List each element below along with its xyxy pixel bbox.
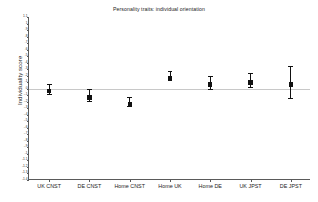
point-estimate-marker bbox=[168, 76, 172, 80]
y-axis-tick-label: -.3 bbox=[24, 107, 28, 110]
y-axis-tick-label: -.1 bbox=[24, 94, 28, 97]
ci-cap-upper bbox=[288, 66, 293, 67]
y-axis-tick-label: -1.2 bbox=[22, 165, 28, 168]
chart-figure: Personality traits: individual orientati… bbox=[0, 0, 318, 202]
point-estimate-marker bbox=[208, 82, 212, 86]
y-axis-tick-label: .5 bbox=[25, 55, 28, 58]
x-axis-tick bbox=[49, 179, 50, 182]
y-axis-tick-label: .9 bbox=[25, 28, 28, 31]
plot-area: 1.11.9.8.7.6.5.4.3.2.10-.1-.2-.3-.4-.5-.… bbox=[28, 17, 310, 180]
reference-line bbox=[29, 89, 310, 90]
ci-cap-lower bbox=[87, 101, 92, 102]
x-axis-tick bbox=[291, 179, 292, 182]
ci-cap-lower bbox=[248, 87, 253, 88]
ci-cap-upper bbox=[127, 97, 132, 98]
ci-cap-lower bbox=[168, 80, 173, 81]
ci-cap-upper bbox=[47, 84, 52, 85]
x-axis-tick-label: DE CNST bbox=[78, 183, 102, 189]
y-axis-tick-label: -.7 bbox=[24, 133, 28, 136]
chart-title: Personality traits: individual orientati… bbox=[0, 6, 318, 12]
y-axis-tick-label: -.5 bbox=[24, 120, 28, 123]
y-axis-title: Individuality score bbox=[16, 36, 23, 126]
y-axis-tick-label: 1 bbox=[26, 22, 28, 25]
point-estimate-marker bbox=[248, 80, 252, 84]
ci-cap-upper bbox=[208, 76, 213, 77]
y-axis-tick-label: -1 bbox=[25, 152, 28, 155]
point-estimate-marker bbox=[289, 82, 293, 86]
y-axis-tick-label: .4 bbox=[25, 61, 28, 64]
x-axis-tick-label: Home CNST bbox=[114, 183, 145, 189]
ci-cap-lower bbox=[288, 98, 293, 99]
y-axis-tick-label: 1.1 bbox=[23, 15, 27, 18]
x-axis-tick-label: Home DE bbox=[199, 183, 222, 189]
ci-cap-lower bbox=[47, 94, 52, 95]
y-axis-tick-label: .6 bbox=[25, 48, 28, 51]
x-axis-tick bbox=[89, 179, 90, 182]
ci-cap-upper bbox=[168, 71, 173, 72]
y-axis-tick-label: .8 bbox=[25, 35, 28, 38]
y-axis-tick-label: .2 bbox=[25, 74, 28, 77]
x-axis-tick bbox=[130, 179, 131, 182]
point-estimate-marker bbox=[47, 89, 51, 93]
x-axis-tick bbox=[251, 179, 252, 182]
point-estimate-marker bbox=[128, 102, 132, 106]
y-axis-tick-label: -.8 bbox=[24, 139, 28, 142]
y-axis-tick-label: -1.1 bbox=[22, 159, 28, 162]
y-axis-tick-label: -1.4 bbox=[22, 178, 28, 181]
y-axis-tick-label: -.6 bbox=[24, 126, 28, 129]
y-axis-tick-label: .1 bbox=[25, 81, 28, 84]
y-axis-tick-label: 0 bbox=[26, 87, 28, 90]
ci-cap-upper bbox=[248, 73, 253, 74]
y-axis-tick-label: -.4 bbox=[24, 113, 28, 116]
x-axis-tick-label: DE JPST bbox=[280, 183, 302, 189]
point-estimate-marker bbox=[87, 95, 91, 99]
y-axis-tick-label: .3 bbox=[25, 68, 28, 71]
ci-cap-lower bbox=[208, 89, 213, 90]
x-axis-tick-label: UK JPST bbox=[239, 183, 261, 189]
x-axis-tick bbox=[170, 179, 171, 182]
y-axis-tick-label: .7 bbox=[25, 41, 28, 44]
y-axis-tick-label: -.2 bbox=[24, 100, 28, 103]
y-axis-tick-label: -.9 bbox=[24, 146, 28, 149]
x-axis-tick-label: Home UK bbox=[158, 183, 181, 189]
plot-inner: 1.11.9.8.7.6.5.4.3.2.10-.1-.2-.3-.4-.5-.… bbox=[29, 17, 310, 179]
ci-cap-upper bbox=[87, 89, 92, 90]
x-axis-tick bbox=[210, 179, 211, 182]
ci-cap-lower bbox=[127, 106, 132, 107]
y-axis-tick-label: -1.3 bbox=[22, 172, 28, 175]
x-axis-tick-label: UK CNST bbox=[37, 183, 61, 189]
